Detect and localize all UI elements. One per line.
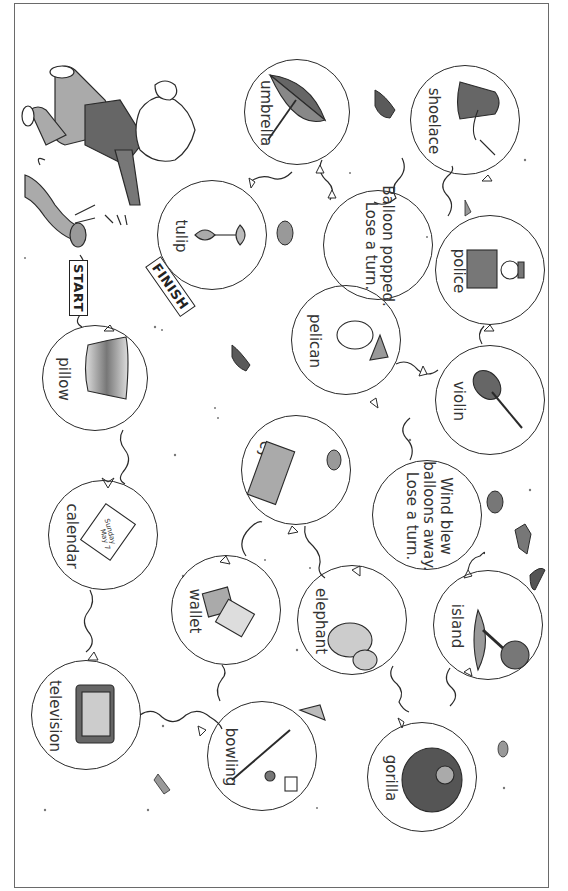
space-label: pillow bbox=[55, 357, 72, 400]
space-label: gorilla bbox=[382, 755, 399, 802]
space-label: calendar bbox=[63, 503, 80, 568]
space-island[interactable]: island bbox=[433, 570, 543, 680]
space-gorilla[interactable]: gorilla bbox=[367, 722, 477, 832]
space-label-line: Lose a turn. bbox=[403, 461, 420, 571]
space-label: elephant bbox=[312, 588, 329, 654]
space-label-line: Wind blew bbox=[437, 461, 454, 571]
space-label-line: Balloon popped. bbox=[379, 185, 396, 307]
space-wallet[interactable]: wallet bbox=[171, 555, 281, 665]
space-label: police bbox=[450, 249, 467, 294]
space-label: shoelace bbox=[425, 88, 442, 155]
space-label: wallet bbox=[186, 589, 203, 634]
space-television[interactable]: television bbox=[31, 660, 141, 770]
space-label: violin bbox=[450, 381, 467, 421]
space-wind[interactable]: Wind blewballoons away.Lose a turn. bbox=[372, 460, 482, 570]
space-calendar[interactable]: calendar bbox=[48, 480, 158, 590]
space-elephant[interactable]: elephant bbox=[297, 565, 407, 675]
space-label-line: balloons away. bbox=[420, 461, 437, 571]
space-popped[interactable]: Balloon popped.Lose a turn. bbox=[323, 190, 433, 300]
space-label: tulip bbox=[172, 219, 189, 252]
space-shoelace[interactable]: shoelace bbox=[410, 65, 520, 175]
space-label: television bbox=[46, 680, 63, 752]
space-label: Balloon popped.Lose a turn. bbox=[362, 185, 396, 307]
space-label-line: Lose a turn. bbox=[362, 185, 379, 307]
space-pillow[interactable]: pillow bbox=[42, 325, 148, 431]
space-label: Wind blewballoons away.Lose a turn. bbox=[403, 461, 454, 571]
space-label: umbrella bbox=[257, 80, 274, 146]
space-cylinder[interactable]: cylinder bbox=[241, 415, 351, 525]
space-label: pelican bbox=[306, 314, 323, 368]
space-label: cylinder bbox=[256, 441, 273, 501]
start-label: START bbox=[69, 260, 88, 316]
space-bowling[interactable]: bowling bbox=[207, 701, 317, 811]
space-police[interactable]: police bbox=[435, 215, 545, 325]
space-label: island bbox=[448, 604, 465, 648]
space-violin[interactable]: violin bbox=[435, 345, 545, 455]
space-label: bowling bbox=[222, 728, 239, 786]
space-umbrella[interactable]: umbrella bbox=[244, 59, 350, 165]
